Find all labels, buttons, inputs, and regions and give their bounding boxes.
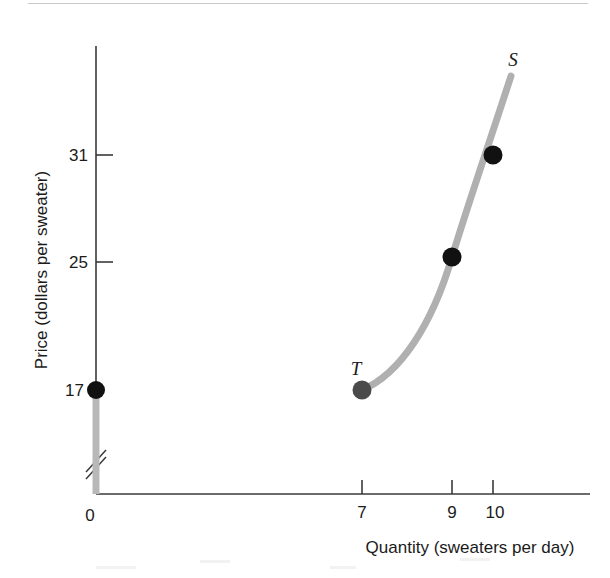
data-point-t [353,381,372,400]
curve-label-s: S [508,49,518,70]
scan-artifacts [96,558,490,569]
data-point-10-31 [484,146,503,165]
origin-tick-label-0: 0 [85,506,94,525]
x-tick-label-10: 10 [486,503,505,522]
data-point-0-17 [87,381,105,399]
point-label-t: T [351,358,363,379]
y-tick-label-31: 31 [69,146,88,165]
x-tick-label-7: 7 [357,503,366,522]
y-tick-label-17: 17 [65,381,84,400]
supply-curve-path [362,76,511,390]
y-axis-title: Price (dollars per sweater) [32,171,51,369]
data-point-9-25 [443,248,462,267]
supply-curve-chart: 31 25 17 0 7 9 10 Price (dollars per swe… [0,0,610,578]
figure-canvas: 31 25 17 0 7 9 10 Price (dollars per swe… [0,0,610,578]
x-tick-label-9: 9 [447,503,456,522]
x-axis-title: Quantity (sweaters per day) [366,538,575,557]
y-tick-label-25: 25 [69,253,88,272]
